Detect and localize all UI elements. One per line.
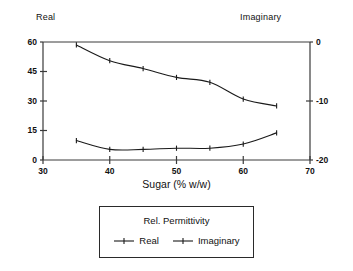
legend-title: Rel. Permittivity: [100, 215, 253, 226]
legend-entries: RealImaginary: [100, 235, 253, 246]
legend-label: Real: [139, 235, 159, 246]
x-axis-tick-label: 40: [98, 166, 122, 176]
y-axis-tick-label-right: 0: [316, 37, 340, 47]
legend: Rel. Permittivity RealImaginary: [99, 206, 254, 258]
legend-entry-real: Real: [113, 235, 159, 246]
x-axis-tick-label: 30: [31, 166, 55, 176]
y-axis-tick-label-left: 15: [15, 125, 37, 135]
y-axis-tick-label-left: 60: [15, 37, 37, 47]
y-axis-tick-label-left: 45: [15, 66, 37, 76]
legend-line-marker-icon: [172, 236, 194, 246]
x-axis-tick-label: 60: [231, 166, 255, 176]
y-axis-tick-label-left: 0: [15, 155, 37, 165]
x-axis-title: Sugar (% w/w): [0, 178, 353, 190]
legend-entry-imaginary: Imaginary: [172, 235, 240, 246]
legend-line-marker-icon: [113, 236, 135, 246]
x-axis-tick-label: 50: [165, 166, 189, 176]
y-axis-tick-label-right: -10: [316, 96, 340, 106]
x-axis-tick-label: 70: [298, 166, 322, 176]
chart-container: Real Imaginary 015304560-20-100304050607…: [0, 0, 353, 271]
legend-label: Imaginary: [198, 235, 240, 246]
y-axis-tick-label-left: 30: [15, 96, 37, 106]
y-axis-tick-label-right: -20: [316, 155, 340, 165]
